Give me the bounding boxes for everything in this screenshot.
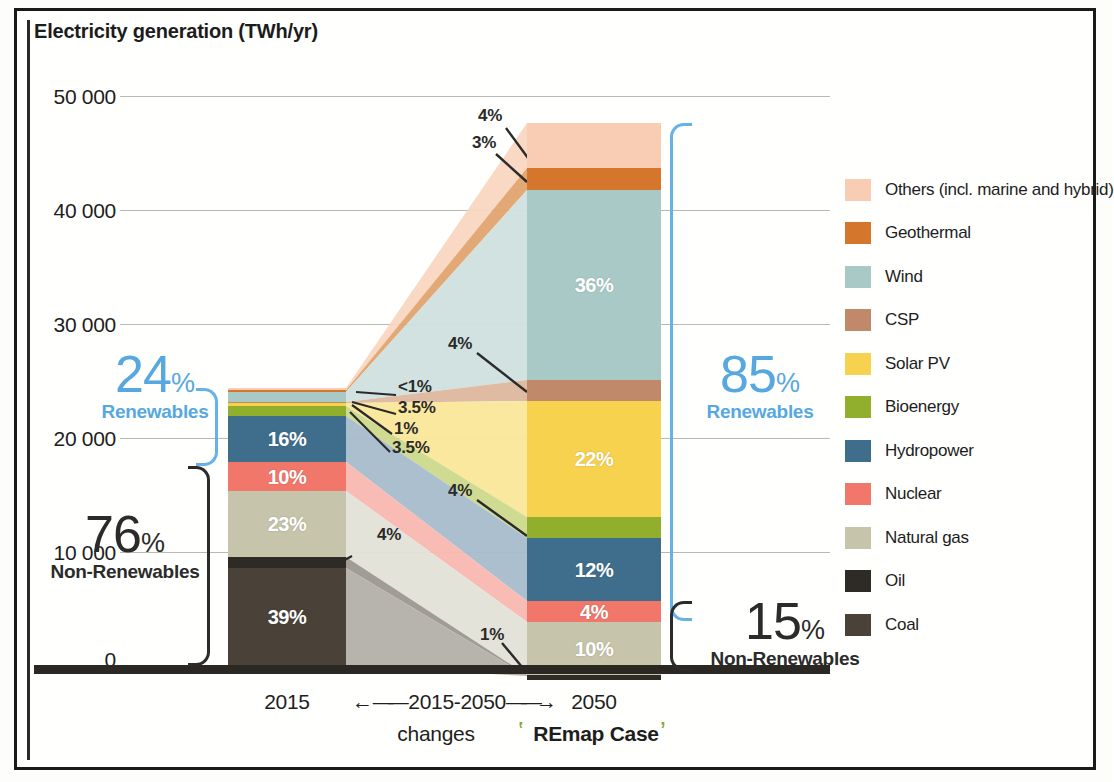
- legend-swatch-geothermal: [845, 222, 871, 244]
- legend-swatch-others: [845, 179, 871, 201]
- annotation-2015-nonrenewables: 76% Non-Renewables: [40, 508, 210, 581]
- segment-2050-geothermal: [527, 168, 661, 190]
- annotation-2015-renewables: 24% Renewables: [100, 348, 210, 421]
- legend-item-hydropower[interactable]: Hydropower: [845, 429, 1095, 473]
- annotation-2050-renewables-value: 85: [720, 345, 776, 403]
- bracket-2050-nonrenewables: [670, 601, 692, 671]
- bar-2050[interactable]: 36% 22% 12% 4% 10%: [527, 123, 661, 666]
- segment-label-2050-solar-pv: 22%: [527, 448, 661, 471]
- segment-label-2015-coal: 39%: [228, 606, 346, 629]
- legend-swatch-natural-gas: [845, 527, 871, 549]
- xlabel-remap-case: REmap Case: [532, 722, 660, 746]
- annotation-2015-nonrenewables-pct: %: [141, 528, 165, 558]
- callout-2050-oil: 1%: [480, 625, 504, 645]
- callout-2015-csp: <1%: [398, 377, 432, 397]
- callout-2050-others: 4%: [478, 106, 502, 126]
- segment-2050-csp: [527, 380, 661, 401]
- annotation-2015-nonrenewables-caption: Non-Renewables: [40, 562, 210, 581]
- legend-item-csp[interactable]: CSP: [845, 299, 1095, 343]
- legend-label-nuclear: Nuclear: [885, 484, 941, 504]
- legend-label-solar-pv: Solar PV: [885, 354, 950, 374]
- legend-item-nuclear[interactable]: Nuclear: [845, 473, 1095, 517]
- xlabel-changes-sub: changes: [356, 722, 516, 746]
- xlabel-changes-range: 2015-2050: [408, 690, 506, 713]
- legend-swatch-solar-pv: [845, 353, 871, 375]
- callout-2050-csp: 4%: [448, 334, 472, 354]
- segment-2015-hydropower: 16%: [228, 416, 346, 462]
- segment-label-2015-natural-gas: 23%: [228, 513, 346, 536]
- legend-label-geothermal: Geothermal: [885, 223, 971, 243]
- legend-label-wind: Wind: [885, 267, 923, 287]
- segment-label-2050-nuclear: 4%: [527, 600, 661, 623]
- legend-label-natural-gas: Natural gas: [885, 528, 969, 548]
- annotation-2050-renewables: 85% Renewables: [700, 348, 820, 421]
- segment-2050-solar-pv: 22%: [527, 401, 661, 517]
- segment-label-2050-natural-gas: 10%: [527, 637, 661, 660]
- legend-swatch-oil: [845, 570, 871, 592]
- segment-label-2050-hydropower: 12%: [527, 558, 661, 581]
- segment-2015-wind: [228, 392, 346, 402]
- segment-2015-natural-gas: 23%: [228, 491, 346, 557]
- segment-2050-hydropower: 12%: [527, 538, 661, 601]
- legend-label-coal: Coal: [885, 615, 919, 635]
- annotation-2050-nonrenewables-value: 15: [745, 592, 801, 650]
- legend-label-oil: Oil: [885, 571, 905, 591]
- legend-item-oil[interactable]: Oil: [845, 560, 1095, 604]
- callout-2015-solar-pv: 1%: [394, 419, 418, 439]
- arrow-left-icon: ←: [352, 690, 373, 713]
- annotation-2050-renewables-caption: Renewables: [700, 402, 820, 421]
- legend-item-bioenergy[interactable]: Bioenergy: [845, 386, 1095, 430]
- bar-2015[interactable]: 16% 10% 23% 39%: [228, 388, 346, 666]
- legend-item-wind[interactable]: Wind: [845, 255, 1095, 299]
- legend-item-natural-gas[interactable]: Natural gas: [845, 516, 1095, 560]
- segment-2050-wind: 36%: [527, 190, 661, 380]
- segment-2015-oil: [228, 557, 346, 568]
- xlabel-2050: 2050: [536, 690, 652, 714]
- segment-label-2015-nuclear: 10%: [228, 465, 346, 488]
- callout-2015-oil: 4%: [377, 525, 401, 545]
- segment-2050-oil: [527, 675, 661, 680]
- legend-label-bioenergy: Bioenergy: [885, 397, 959, 417]
- xlabel-2015: 2015: [232, 690, 342, 714]
- bracket-2050-renewables: [670, 123, 692, 621]
- legend-item-others[interactable]: Others (incl. marine and hybrid): [845, 168, 1095, 212]
- legend-swatch-nuclear: [845, 483, 871, 505]
- legend-swatch-hydropower: [845, 440, 871, 462]
- legend-swatch-csp: [845, 309, 871, 331]
- legend-label-others: Others (incl. marine and hybrid): [885, 180, 1114, 200]
- legend-swatch-wind: [845, 266, 871, 288]
- legend-label-csp: CSP: [885, 310, 919, 330]
- legend-item-solar-pv[interactable]: Solar PV: [845, 342, 1095, 386]
- legend-item-geothermal[interactable]: Geothermal: [845, 212, 1095, 256]
- annotation-2050-nonrenewables-pct: %: [801, 615, 825, 645]
- segment-2015-bioenergy: [228, 406, 346, 416]
- remap-bracket-right-icon: ’: [660, 716, 666, 747]
- annotation-2050-nonrenewables-caption: Non-Renewables: [700, 649, 870, 668]
- legend-item-coal[interactable]: Coal: [845, 603, 1095, 647]
- segment-label-2050-wind: 36%: [527, 274, 661, 297]
- annotation-2050-renewables-pct: %: [776, 368, 800, 398]
- remap-bracket-left-icon: ’: [518, 716, 524, 747]
- segment-2015-nuclear: 10%: [228, 462, 346, 491]
- callout-2050-geothermal: 3%: [472, 133, 496, 153]
- callout-2015-bioenergy: 3.5%: [392, 438, 430, 458]
- legend-label-hydropower: Hydropower: [885, 441, 974, 461]
- segment-2050-others: [527, 123, 661, 168]
- legend: Others (incl. marine and hybrid) Geother…: [845, 168, 1095, 647]
- xlabel-changes-row: ←—— 2015-2050——→: [352, 690, 557, 714]
- segment-label-2015-hydropower: 16%: [228, 428, 346, 451]
- segment-2050-nuclear: 4%: [527, 601, 661, 622]
- segment-2050-bioenergy: [527, 517, 661, 538]
- callout-2015-wind: 3.5%: [398, 398, 436, 418]
- callout-2050-bioenergy: 4%: [448, 481, 472, 501]
- legend-swatch-bioenergy: [845, 396, 871, 418]
- annotation-2015-renewables-caption: Renewables: [100, 402, 210, 421]
- annotation-2015-renewables-value: 24: [115, 345, 171, 403]
- segment-2015-coal: 39%: [228, 568, 346, 666]
- legend-swatch-coal: [845, 614, 871, 636]
- annotation-2015-nonrenewables-value: 76: [85, 505, 141, 563]
- annotation-2015-renewables-pct: %: [171, 368, 195, 398]
